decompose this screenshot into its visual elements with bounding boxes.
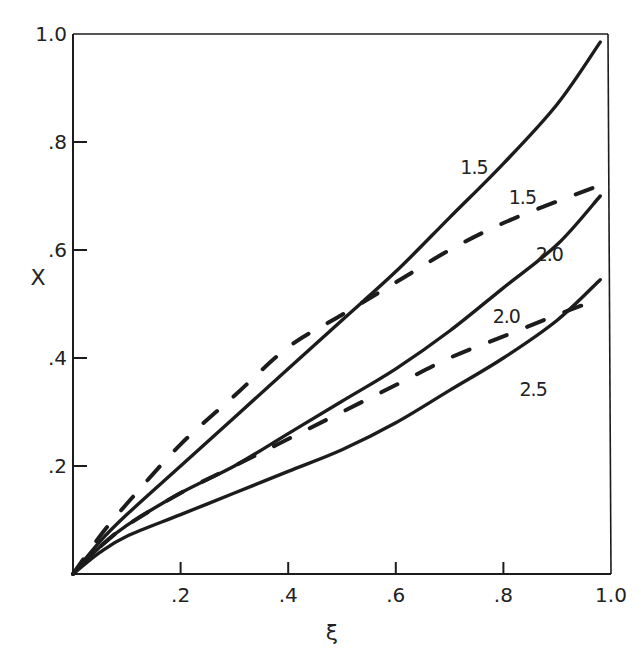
- x-tick-label: 1.0: [595, 583, 627, 607]
- curve-label-2-0-dashed: 2.0: [493, 305, 520, 327]
- x-tick-label: .8: [494, 583, 513, 607]
- curve-label-1-5-dashed: 1.5: [509, 186, 536, 208]
- x-axis-label: ξ: [326, 620, 338, 645]
- x-tick-label: .2: [171, 583, 190, 607]
- right-border: [608, 34, 611, 574]
- chart: .2.4.6.81.0.2.4.6.81.0 1.51.52.02.02.5 ξ…: [0, 0, 641, 658]
- plot-frame: [73, 34, 611, 574]
- curve-label-2-5-solid: 2.5: [520, 378, 547, 400]
- curve-2-0-dashed: [73, 299, 600, 574]
- y-tick-label: .2: [48, 454, 67, 478]
- curves: [73, 42, 600, 574]
- x-tick-label: .4: [279, 583, 298, 607]
- y-tick-label: .8: [48, 130, 67, 154]
- y-axis-label: X: [30, 265, 45, 290]
- y-tick-label: .6: [48, 238, 67, 262]
- y-tick-label: .4: [48, 346, 67, 370]
- curve-label-2-0-solid: 2.0: [536, 243, 563, 265]
- x-tick-label: .6: [386, 583, 405, 607]
- curve-label-1-5-solid: 1.5: [460, 156, 487, 178]
- y-tick-label: 1.0: [35, 22, 67, 46]
- curve-1-5-solid: [73, 42, 600, 574]
